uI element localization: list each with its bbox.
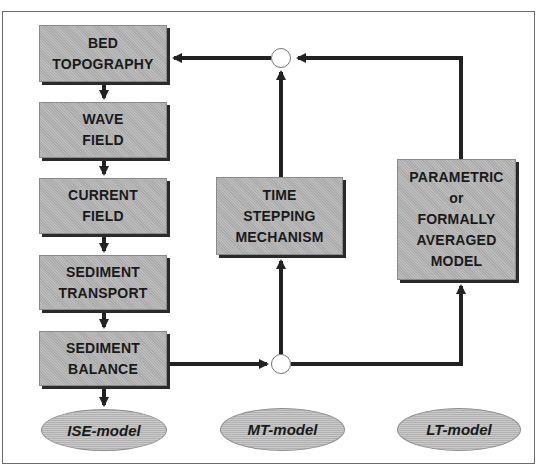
box-label-line: PARAMETRIC — [409, 167, 503, 188]
box-label-line: FIELD — [82, 130, 123, 151]
current-field-box: CURRENT FIELD — [39, 178, 167, 234]
box-label-line: TRANSPORT — [59, 283, 148, 304]
top-junction-node — [271, 48, 291, 68]
mt-model-ellipse: MT-model — [220, 408, 345, 451]
box-label-line: STEPPING — [243, 206, 315, 227]
box-label-line: FORMALLY — [417, 209, 495, 230]
box-label-line: SEDIMENT — [66, 262, 140, 283]
box-label-line: MECHANISM — [235, 227, 323, 248]
ise-model-ellipse: ISE-model — [41, 409, 167, 451]
box-label-line: MODEL — [431, 251, 483, 272]
box-label-line: BED — [88, 33, 118, 54]
box-label-line: BALANCE — [68, 359, 138, 380]
box-label-line: AVERAGED — [417, 230, 497, 251]
box-label-line: FIELD — [82, 206, 123, 227]
ellipse-label: ISE-model — [67, 422, 140, 439]
box-label-line: WAVE — [83, 109, 124, 130]
bed-topography-box: BED TOPOGRAPHY — [39, 25, 167, 82]
ellipse-label: MT-model — [248, 421, 318, 438]
lt-model-ellipse: LT-model — [397, 408, 521, 451]
sediment-transport-box: SEDIMENT TRANSPORT — [39, 255, 167, 310]
parametric-model-box: PARAMETRIC or FORMALLY AVERAGED MODEL — [397, 159, 516, 280]
ellipse-label: LT-model — [426, 421, 492, 438]
wave-field-box: WAVE FIELD — [39, 102, 167, 158]
sediment-balance-box: SEDIMENT BALANCE — [39, 331, 167, 386]
box-label-line: SEDIMENT — [66, 338, 140, 359]
time-stepping-box: TIME STEPPING MECHANISM — [216, 177, 343, 255]
box-label-line: TIME — [262, 185, 296, 206]
box-label-line: CURRENT — [68, 185, 138, 206]
box-label-line: or — [449, 188, 463, 209]
box-label-line: TOPOGRAPHY — [52, 54, 153, 75]
bottom-junction-node — [271, 354, 291, 374]
